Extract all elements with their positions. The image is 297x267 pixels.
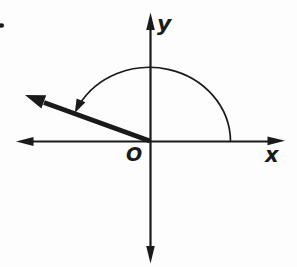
terminal-ray-arrowhead [25, 95, 46, 108]
angle-arc [79, 67, 231, 141]
y-axis-arrowhead-top [146, 13, 155, 31]
y-axis-label: y [157, 11, 173, 36]
figure-canvas: y x O [0, 0, 297, 267]
x-axis-label: x [264, 143, 280, 167]
angle-diagram-svg: y x O [0, 0, 297, 267]
origin-label: O [126, 143, 142, 165]
x-axis-arrowhead-left [16, 137, 34, 146]
terminal-ray [44, 103, 150, 142]
stray-dot [0, 23, 4, 27]
y-axis-arrowhead-bottom [146, 246, 155, 264]
angle-arc-arrowhead [75, 98, 86, 113]
